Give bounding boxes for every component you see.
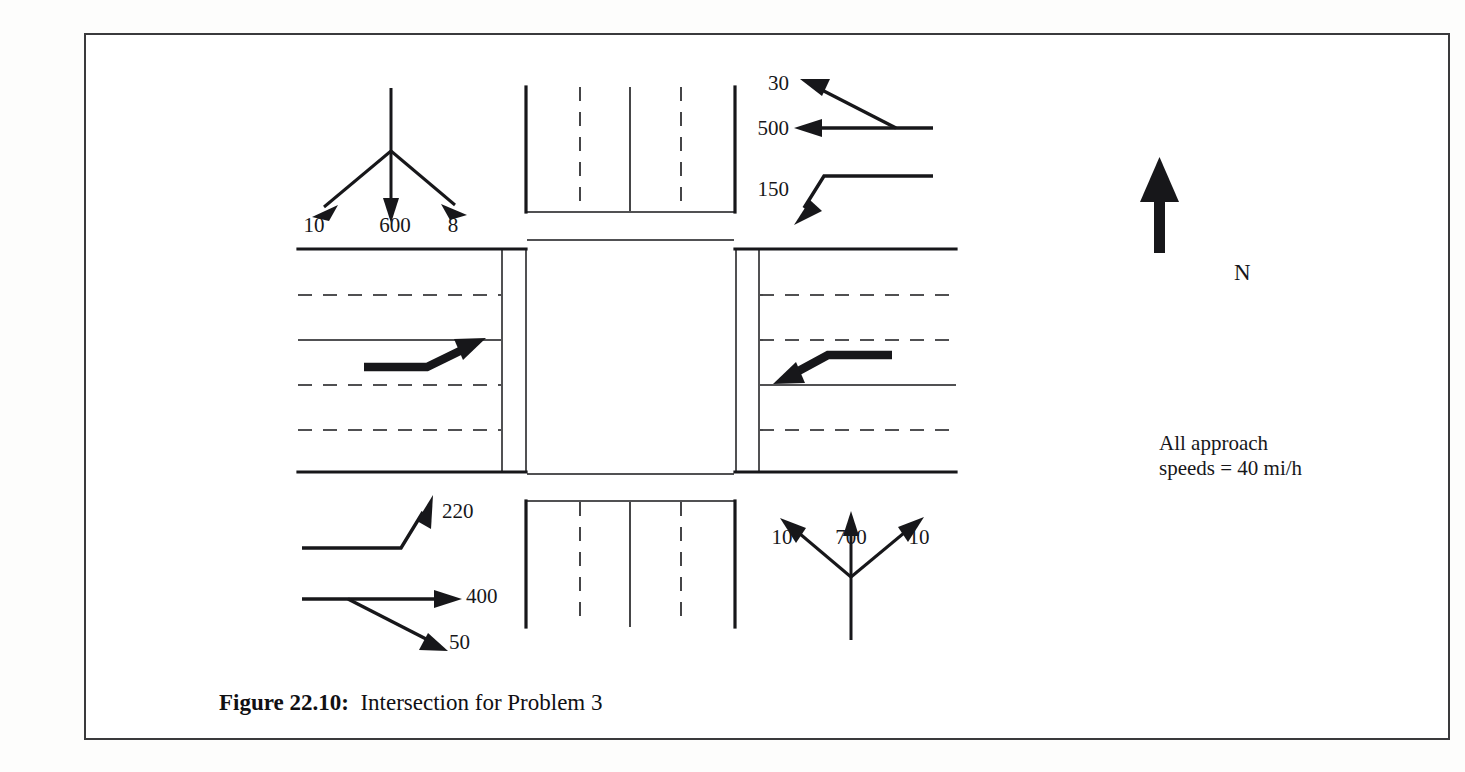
figure-frame: 10 600 8 30 500 150 220 400 50 10 700 10…: [84, 33, 1450, 740]
north-compass-label: N: [1234, 259, 1251, 286]
label-northbound-right-turn: 10: [899, 525, 939, 550]
north-compass-arrow: [1140, 157, 1179, 253]
approach-speed-note: All approach speeds = 40 mi/h: [1159, 431, 1302, 481]
label-eastbound-left-turn: 220: [442, 499, 495, 524]
approach-speed-note-line-1: All approach: [1159, 431, 1302, 456]
label-westbound-through: 500: [736, 116, 789, 141]
approach-speed-note-line-2: speeds = 40 mi/h: [1159, 456, 1302, 481]
westbound-approach-arrows: [794, 79, 933, 225]
east-leg-lane-change-arrow: [773, 355, 892, 384]
label-southbound-through: 600: [367, 213, 423, 238]
west-leg-lane-lines: [298, 295, 501, 430]
eastbound-approach-arrows: [302, 495, 462, 651]
label-westbound-left-turn: 150: [736, 177, 789, 202]
label-northbound-left-turn: 10: [762, 525, 802, 550]
crosswalks: [502, 212, 759, 501]
label-westbound-right-turn: 30: [755, 71, 789, 96]
label-eastbound-through: 400: [466, 584, 519, 609]
figure-caption-body: Intersection for Problem 3: [360, 690, 602, 715]
label-southbound-right-turn: 10: [294, 213, 334, 238]
southbound-approach-arrows: [312, 88, 467, 223]
label-eastbound-right-turn: 50: [449, 630, 489, 655]
east-leg-lane-lines: [760, 295, 956, 430]
figure-caption: Figure 22.10: Intersection for Problem 3: [219, 690, 602, 716]
figure-caption-label: Figure 22.10:: [219, 690, 349, 715]
label-northbound-through: 700: [823, 525, 879, 550]
label-southbound-left-turn: 8: [439, 213, 467, 238]
west-leg-lane-change-arrow: [364, 338, 486, 367]
south-leg-lane-lines: [580, 502, 681, 627]
figure-caption-text: [349, 690, 361, 715]
north-leg-lane-lines: [580, 87, 681, 211]
